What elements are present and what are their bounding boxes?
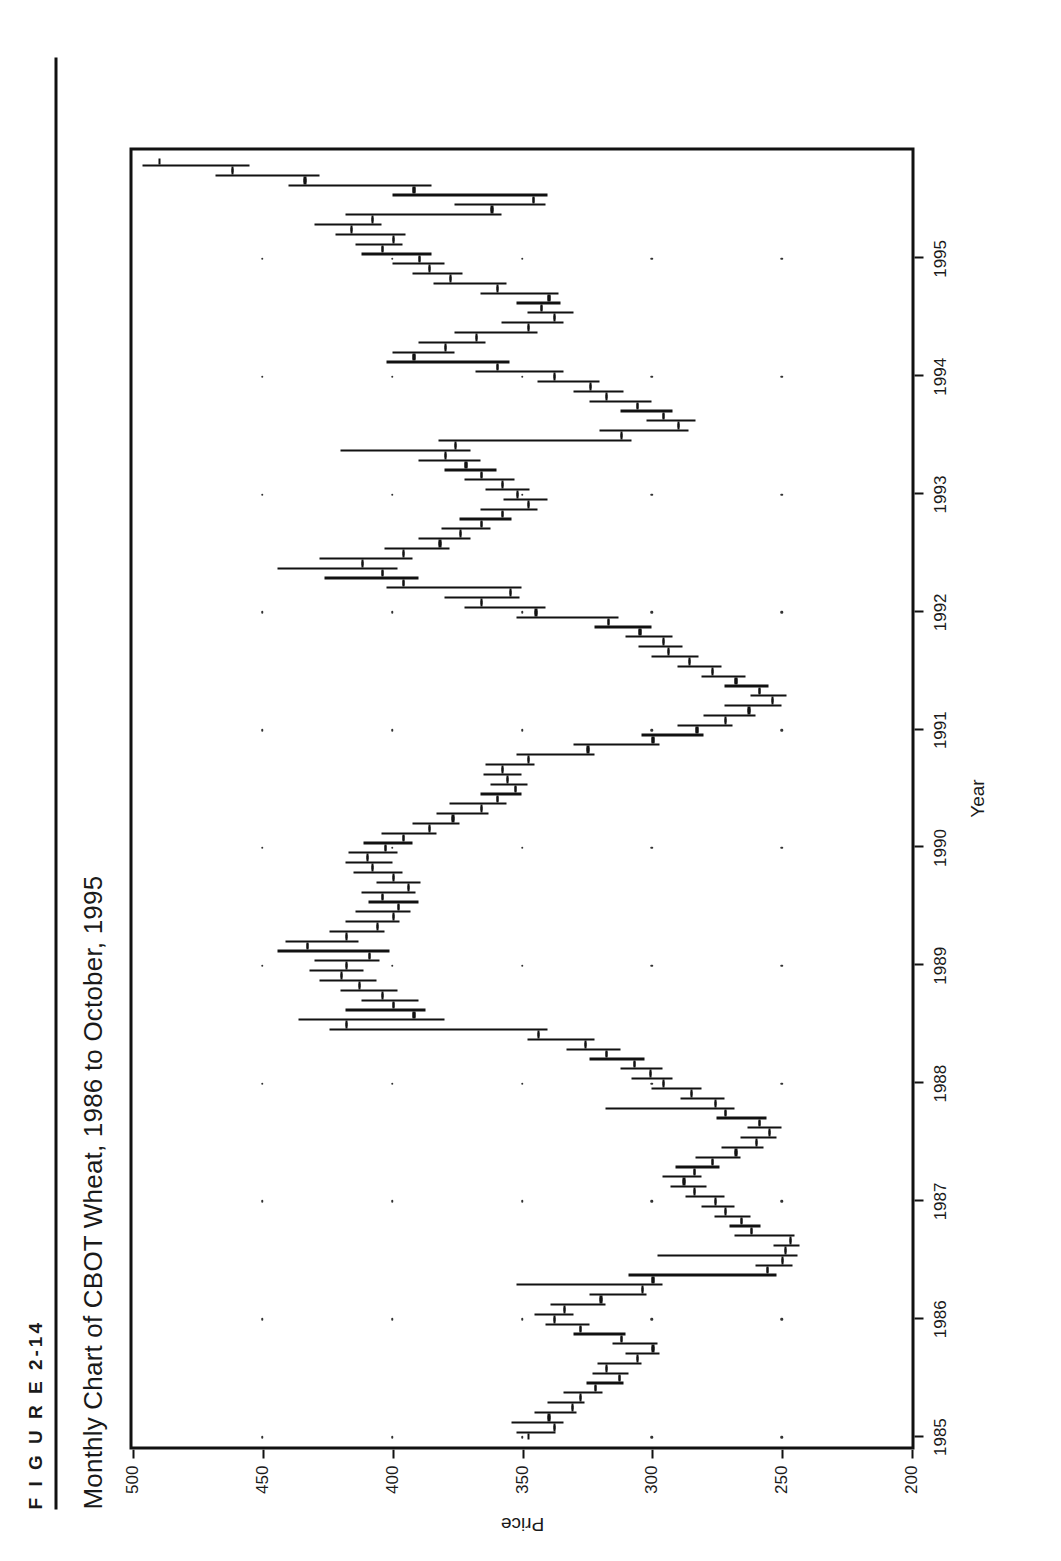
high-low-line — [386, 360, 508, 362]
high-low-line — [701, 675, 745, 677]
grid-dot — [520, 375, 523, 378]
open-tick — [605, 392, 607, 398]
high-low-line — [464, 478, 513, 480]
x-tick-label: 1985 — [930, 1418, 950, 1456]
x-tick — [914, 1081, 923, 1083]
open-tick — [571, 1403, 573, 1409]
grid-dot — [780, 1318, 783, 1321]
grid-dot — [261, 728, 264, 731]
grid-dot — [780, 1435, 783, 1438]
grid-dot — [780, 493, 783, 496]
grid-dot — [520, 1082, 523, 1085]
grid-dot — [520, 1435, 523, 1438]
high-low-line — [701, 1205, 735, 1207]
open-tick — [771, 696, 773, 702]
grid-dot — [390, 493, 393, 496]
open-tick — [553, 1315, 555, 1321]
high-low-line — [348, 851, 397, 853]
high-low-line — [724, 684, 768, 686]
open-tick — [340, 971, 342, 977]
x-tick-label: 1994 — [930, 357, 950, 395]
grid-dot — [780, 375, 783, 378]
open-tick — [688, 657, 690, 663]
high-low-line — [750, 694, 786, 696]
open-tick — [547, 294, 549, 300]
high-low-line — [353, 871, 402, 873]
grid-dot — [780, 964, 783, 967]
open-tick — [662, 412, 664, 418]
high-low-line — [625, 1352, 659, 1354]
open-tick — [392, 873, 394, 879]
high-low-line — [516, 302, 560, 304]
high-low-line — [277, 950, 389, 952]
high-low-line — [641, 734, 703, 736]
open-tick — [755, 1138, 757, 1144]
open-tick — [444, 451, 446, 457]
open-tick — [501, 480, 503, 486]
high-low-line — [503, 498, 547, 500]
open-tick — [553, 372, 555, 378]
grid-dot — [650, 375, 653, 378]
open-tick — [449, 274, 451, 280]
open-tick — [384, 844, 386, 850]
grid-dot — [650, 611, 653, 614]
grid-dot — [520, 611, 523, 614]
high-low-line — [620, 1067, 662, 1069]
high-low-line — [329, 1028, 547, 1030]
open-tick — [540, 304, 542, 310]
open-tick — [534, 608, 536, 614]
open-tick — [303, 176, 305, 182]
open-tick — [368, 952, 370, 958]
open-tick — [734, 1148, 736, 1154]
open-tick — [231, 166, 233, 172]
open-tick — [516, 490, 518, 496]
open-tick — [392, 1001, 394, 1007]
x-tick-label: 1986 — [930, 1300, 950, 1338]
open-tick — [451, 814, 453, 820]
grid-dot — [780, 611, 783, 614]
close-tick — [158, 158, 160, 164]
grid-dot — [520, 1318, 523, 1321]
open-tick — [605, 1364, 607, 1370]
high-low-line — [319, 557, 412, 559]
x-tick — [914, 1199, 923, 1201]
grid-dot — [650, 846, 653, 849]
open-tick — [402, 549, 404, 555]
open-tick — [667, 647, 669, 653]
figure-rule — [54, 57, 57, 1509]
open-tick — [418, 255, 420, 261]
high-low-line — [319, 979, 376, 981]
y-axis-title-label: Price — [500, 1512, 543, 1534]
high-low-line — [516, 1283, 661, 1285]
open-tick — [537, 1030, 539, 1036]
high-low-line — [599, 429, 687, 431]
open-tick — [599, 1295, 601, 1301]
grid-dot — [650, 964, 653, 967]
open-tick — [662, 1079, 664, 1085]
open-tick — [714, 1197, 716, 1203]
high-low-line — [340, 989, 397, 991]
high-low-line — [657, 1254, 797, 1256]
high-low-line — [594, 626, 651, 628]
open-tick — [579, 1325, 581, 1331]
open-tick — [641, 1286, 643, 1292]
high-low-line — [755, 1264, 791, 1266]
high-low-line — [340, 449, 470, 451]
open-tick — [589, 382, 591, 388]
high-low-line — [714, 1215, 750, 1217]
open-tick — [490, 206, 492, 212]
grid-dot — [261, 1200, 264, 1203]
x-tick-label: 1990 — [930, 829, 950, 867]
open-tick — [371, 215, 373, 221]
x-tick — [914, 963, 923, 965]
y-tick — [132, 1449, 134, 1458]
grid-dot — [650, 1200, 653, 1203]
high-low-line — [485, 488, 529, 490]
high-low-line — [355, 243, 402, 245]
open-tick — [392, 912, 394, 918]
grid-dot — [650, 257, 653, 260]
y-tick — [651, 1449, 653, 1458]
high-low-line — [651, 1087, 700, 1089]
high-low-line — [438, 439, 630, 441]
open-tick — [366, 854, 368, 860]
